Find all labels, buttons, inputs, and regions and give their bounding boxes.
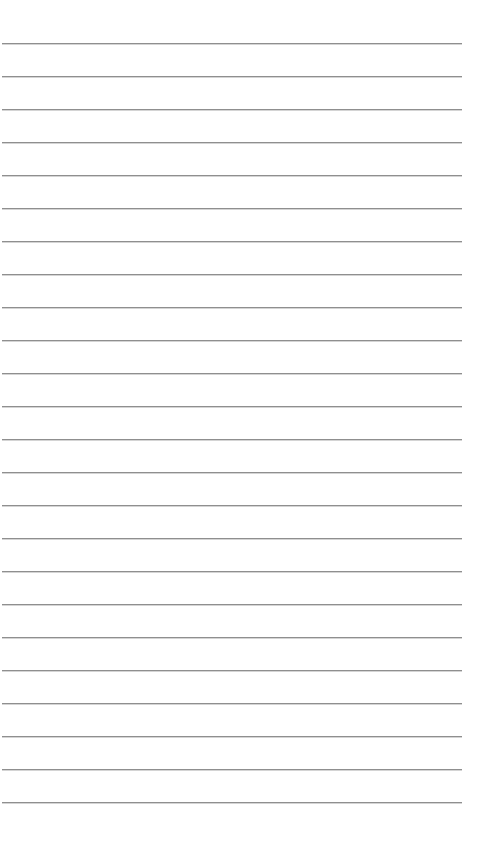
ruled-line	[2, 670, 462, 671]
ruled-line	[2, 769, 462, 770]
ruled-line	[2, 736, 462, 737]
lined-paper-page	[0, 0, 495, 864]
ruled-line	[2, 142, 462, 143]
ruled-line	[2, 208, 462, 209]
ruled-line	[2, 175, 462, 176]
ruled-line	[2, 406, 462, 407]
ruled-line	[2, 43, 462, 44]
ruled-line	[2, 340, 462, 341]
ruled-line	[2, 637, 462, 638]
ruled-line	[2, 439, 462, 440]
ruled-line	[2, 274, 462, 275]
ruled-line	[2, 373, 462, 374]
ruled-line	[2, 76, 462, 77]
ruled-line	[2, 802, 462, 803]
ruled-line	[2, 538, 462, 539]
ruled-line	[2, 109, 462, 110]
ruled-line	[2, 604, 462, 605]
ruled-line	[2, 703, 462, 704]
ruled-line	[2, 571, 462, 572]
ruled-line	[2, 505, 462, 506]
ruled-line	[2, 472, 462, 473]
ruled-line	[2, 241, 462, 242]
ruled-line	[2, 307, 462, 308]
